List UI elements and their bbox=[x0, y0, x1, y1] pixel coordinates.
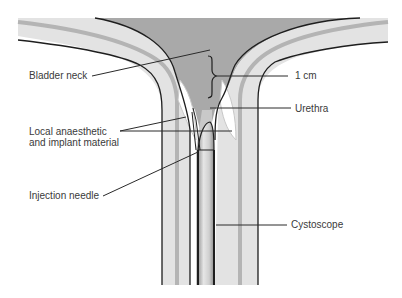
right-outer-outline bbox=[258, 42, 388, 285]
label-urethra: Urethra bbox=[295, 103, 328, 114]
label-bladder-neck: Bladder neck bbox=[29, 70, 87, 81]
label-injection-needle: Injection needle bbox=[29, 190, 99, 201]
label-cystoscope: Cystoscope bbox=[291, 219, 343, 230]
label-one-cm: 1 cm bbox=[295, 70, 317, 81]
bladder-neck-injection-diagram bbox=[0, 0, 402, 298]
cystoscope-shaft bbox=[198, 150, 214, 285]
label-local-anaesthetic-line2: and implant material bbox=[29, 137, 119, 148]
label-local-anaesthetic-line1: Local anaesthetic bbox=[29, 126, 107, 137]
left-bladder-wall bbox=[18, 18, 190, 285]
